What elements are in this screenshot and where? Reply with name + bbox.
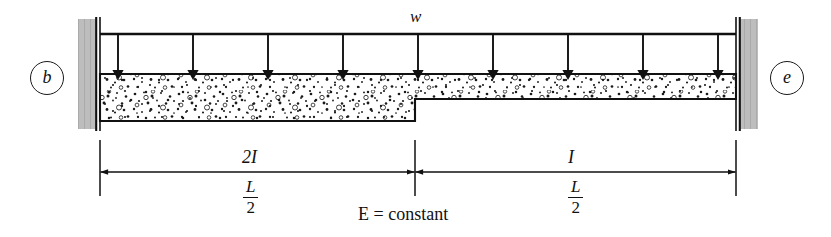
- beam-body: [100, 74, 736, 121]
- right-span-denominator: 2: [568, 198, 583, 217]
- node-label-b: b: [30, 61, 64, 95]
- node-label-e-text: e: [783, 68, 791, 86]
- dimension-extension-lines: [100, 140, 736, 196]
- left-span-fraction: L 2: [243, 178, 258, 217]
- left-inertia-label: 2I: [242, 148, 257, 166]
- right-fixed-support: [736, 17, 758, 131]
- left-support-wall-block: [78, 19, 96, 129]
- left-span-denominator: 2: [243, 198, 258, 217]
- right-support-wall-block: [740, 19, 758, 129]
- node-label-b-text: b: [43, 68, 52, 86]
- right-span-numerator: L: [568, 178, 583, 198]
- beam-fill-speckle-overlay: [100, 74, 736, 121]
- right-span-fraction: L 2: [568, 178, 583, 217]
- beam-diagram: w b e 2I I L 2 L 2 E = constant: [0, 0, 831, 237]
- distributed-load: [100, 34, 736, 71]
- beam-diagram-svg: [0, 0, 831, 237]
- left-span-numerator: L: [243, 178, 258, 198]
- right-inertia-label: I: [568, 148, 574, 166]
- load-symbol-label: w: [410, 8, 421, 25]
- material-note-label: E = constant: [358, 205, 448, 223]
- node-label-e: e: [770, 61, 804, 95]
- left-fixed-support: [78, 17, 100, 131]
